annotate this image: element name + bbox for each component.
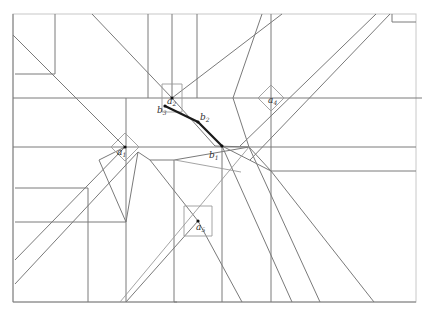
crease-line [240,14,376,146]
crease-line-thin [125,133,139,147]
crease-lines-thin [111,84,284,302]
vertex-point-a1 [123,145,126,148]
vertex-point-b1 [220,144,223,147]
vertex-label-b2: b2 [200,112,210,123]
crease-line [138,152,150,160]
crease-line [15,152,138,284]
crease-line [15,147,125,260]
crease-line [249,147,320,302]
crease-line [233,14,262,98]
crease-line [222,146,292,302]
vertex-label-a5: a5 [196,222,205,233]
crease-pattern-diagram: a1a2a4a5b1b2b3 [0,0,426,314]
vertex-label-a1: a1 [117,147,126,158]
vertex-label-a4: a4 [268,95,277,106]
crease-line [249,147,271,171]
crease-line [126,221,198,302]
crease-line [198,221,242,302]
crease-line [92,14,172,98]
vertex-label-b1: b1 [209,150,219,161]
crease-line [271,171,374,302]
crease-line [13,35,125,147]
crease-line [172,14,282,98]
